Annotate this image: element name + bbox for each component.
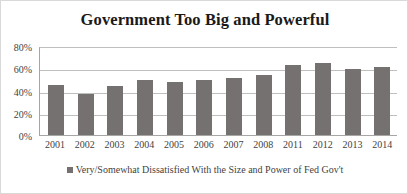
y-axis-tick-label: 20% <box>14 108 32 119</box>
x-axis-tick-label: 2001 <box>40 139 70 150</box>
legend-label: Very/Somewhat Dissatisfied With the Size… <box>76 164 344 175</box>
x-axis-tick-label: 2004 <box>129 139 159 150</box>
plot-area-wrapper <box>39 47 397 136</box>
x-axis-tick-label: 2014 <box>367 139 397 150</box>
y-axis-tick-label: 0% <box>19 131 32 142</box>
bar-slot <box>189 48 219 136</box>
y-axis-tick-label: 40% <box>14 86 32 97</box>
chart-legend: Very/Somewhat Dissatisfied With the Size… <box>1 164 408 175</box>
plot-area <box>39 47 397 136</box>
bar[interactable] <box>78 94 94 136</box>
y-axis: 80%60%40%20%0% <box>1 47 35 136</box>
bar[interactable] <box>226 78 242 136</box>
bar-slot <box>130 48 160 136</box>
x-axis-tick-label: 2012 <box>308 139 338 150</box>
y-axis-tick-label: 60% <box>14 64 32 75</box>
bar[interactable] <box>167 82 183 137</box>
x-axis-tick-label: 2013 <box>338 139 368 150</box>
bar-slot <box>338 48 368 136</box>
bar[interactable] <box>315 63 331 136</box>
bar-slot <box>100 48 130 136</box>
bar-slot <box>249 48 279 136</box>
chart-title: Government Too Big and Powerful <box>1 10 408 30</box>
bar[interactable] <box>345 69 361 136</box>
bar[interactable] <box>48 85 64 136</box>
bar-slot <box>278 48 308 136</box>
x-axis-tick-label: 2003 <box>100 139 130 150</box>
y-axis-tick-label: 80% <box>14 42 32 53</box>
bar[interactable] <box>285 65 301 136</box>
bar[interactable] <box>374 67 390 136</box>
bar-slot <box>308 48 338 136</box>
axis-baseline <box>40 135 397 136</box>
x-axis-tick-label: 2005 <box>159 139 189 150</box>
bar-slot <box>367 48 397 136</box>
x-axis-tick-label: 2007 <box>219 139 249 150</box>
bar-slot <box>160 48 190 136</box>
bar[interactable] <box>256 75 272 136</box>
bar-slot <box>71 48 101 136</box>
bar-slot <box>41 48 71 136</box>
bar-slot <box>219 48 249 136</box>
legend-swatch-icon <box>67 167 73 173</box>
x-axis: 2001200220032004200520062007200820112012… <box>40 139 397 150</box>
x-axis-tick-label: 2002 <box>70 139 100 150</box>
bar[interactable] <box>107 86 123 136</box>
chart-card: Government Too Big and Powerful 80%60%40… <box>0 0 408 194</box>
bar[interactable] <box>196 80 212 136</box>
x-axis-tick-label: 2006 <box>189 139 219 150</box>
x-axis-tick-label: 2011 <box>278 139 308 150</box>
bar-series <box>41 48 397 136</box>
x-axis-tick-label: 2008 <box>248 139 278 150</box>
bar[interactable] <box>137 80 153 136</box>
